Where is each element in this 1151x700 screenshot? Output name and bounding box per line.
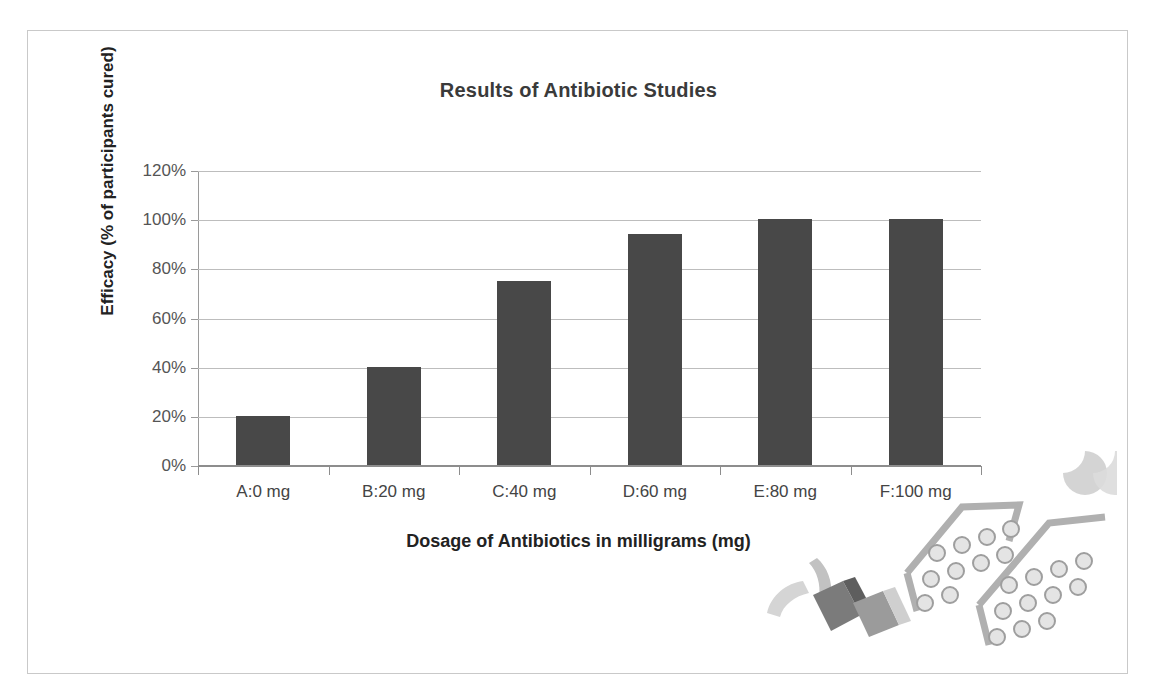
y-axis-tick [191, 269, 198, 270]
x-axis-tick [329, 466, 330, 475]
chart-title: Results of Antibiotic Studies [28, 79, 1129, 102]
y-axis-tick [191, 368, 198, 369]
bar [497, 281, 551, 465]
gridline [198, 171, 981, 172]
x-axis-tick [851, 466, 852, 475]
x-axis-category-label: A:0 mg [236, 482, 290, 502]
x-axis-category-label: B:20 mg [362, 482, 425, 502]
figure-frame: Results of Antibiotic Studies Efficacy (… [27, 30, 1128, 674]
gridline [198, 319, 981, 320]
y-axis-tick [191, 220, 198, 221]
capsules-icon [767, 558, 911, 637]
x-axis-tick [981, 466, 982, 475]
x-axis-category-label: C:40 mg [492, 482, 556, 502]
y-axis-tick-label: 0% [161, 456, 186, 476]
gridline [198, 220, 981, 221]
gridline [198, 269, 981, 270]
gridline [198, 417, 981, 418]
x-axis-tick [590, 466, 591, 475]
y-axis-tick [191, 171, 198, 172]
x-axis-category-label: D:60 mg [623, 482, 687, 502]
round-pills-icon [1063, 451, 1117, 495]
bar [367, 367, 421, 465]
y-axis-tick [191, 466, 198, 467]
y-axis-tick-label: 120% [143, 161, 186, 181]
x-axis-tick [198, 466, 199, 475]
bar [758, 219, 812, 465]
x-axis-title: Dosage of Antibiotics in milligrams (mg) [28, 531, 1129, 552]
bar [628, 234, 682, 465]
x-axis-category-label: E:80 mg [754, 482, 817, 502]
blister-pack-icon-1 [907, 505, 1019, 611]
y-axis-tick-label: 80% [152, 259, 186, 279]
pill-blister-pack-decoration [757, 445, 1117, 665]
y-axis-tick [191, 319, 198, 320]
y-axis-tick-label: 60% [152, 309, 186, 329]
gridline [198, 368, 981, 369]
x-axis-tick [720, 466, 721, 475]
plot-area: 0%20%40%60%80%100%120% A:0 mgB:20 mgC:40… [198, 171, 981, 466]
x-axis-category-label: F:100 mg [880, 482, 952, 502]
y-axis-tick-label: 40% [152, 358, 186, 378]
y-axis-tick-label: 20% [152, 407, 186, 427]
y-axis-tick [191, 417, 198, 418]
bar [889, 219, 943, 465]
y-axis-tick-label: 100% [143, 210, 186, 230]
y-axis-title: Efficacy (% of participants cured) [98, 31, 118, 331]
bar [236, 416, 290, 465]
x-axis-tick [459, 466, 460, 475]
